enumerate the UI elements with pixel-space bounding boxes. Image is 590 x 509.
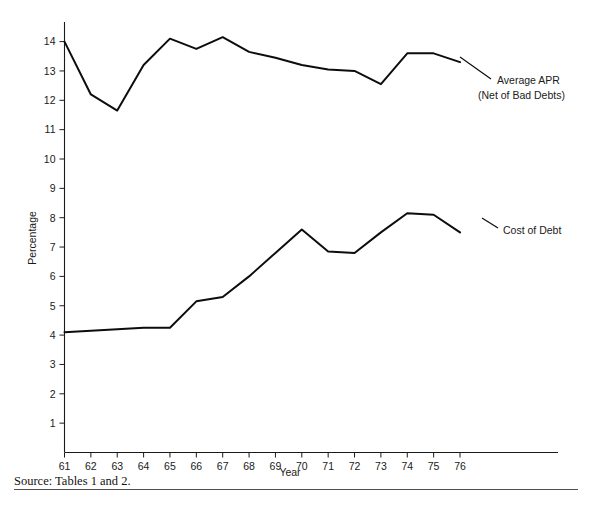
x-axis-title: Year [279,466,301,478]
x-axis-ticks [65,453,461,458]
y-tick-label: 9 [50,182,56,194]
y-tick-label: 2 [50,388,56,400]
series-label-cost-of-debt: Cost of Debt [503,224,561,236]
y-tick-label: 3 [50,358,56,370]
x-tick-label: 67 [217,460,229,472]
apr-label-leader-line [460,57,491,79]
y-tick-label: 1 [50,417,56,429]
x-tick-label: 63 [111,460,123,472]
y-axis-ticks [60,42,65,424]
x-tick-label: 61 [59,460,71,472]
x-tick-label: 66 [190,460,202,472]
x-tick-label: 62 [85,460,97,472]
x-tick-label: 75 [428,460,440,472]
x-tick-label: 71 [322,460,334,472]
x-tick-label: 65 [164,460,176,472]
y-tick-label: 8 [50,212,56,224]
x-tick-label: 73 [375,460,387,472]
x-axis-tick-labels: 61626364656667686970717273747576 [59,460,466,472]
chart-figure: 1234567891011121314 61626364656667686970… [0,0,590,509]
x-tick-label: 68 [243,460,255,472]
x-tick-label: 76 [454,460,466,472]
y-axis-title: Percentage [26,211,38,265]
x-tick-label: 74 [401,460,413,472]
y-tick-label: 6 [50,270,56,282]
series-label-average-apr-line1: Average APR [497,74,560,86]
y-tick-label: 14 [44,35,56,47]
y-tick-label: 12 [44,94,56,106]
y-tick-label: 5 [50,300,56,312]
source-note: Source: Tables 1 and 2. [14,474,131,489]
y-axis-tick-labels: 1234567891011121314 [44,35,56,429]
y-tick-label: 11 [45,123,56,135]
line-chart-canvas: 1234567891011121314 61626364656667686970… [0,0,590,509]
cost-label-leader-line [482,218,498,228]
y-tick-label: 10 [44,153,56,165]
x-tick-label: 64 [138,460,150,472]
series-line-cost-of-debt [65,213,461,332]
series-line-average-apr [65,37,461,110]
y-tick-label: 7 [50,241,56,253]
series-label-average-apr-line2: (Net of Bad Debts) [478,89,565,101]
y-tick-label: 13 [44,65,56,77]
y-tick-label: 4 [50,329,56,341]
x-tick-label: 72 [349,460,361,472]
